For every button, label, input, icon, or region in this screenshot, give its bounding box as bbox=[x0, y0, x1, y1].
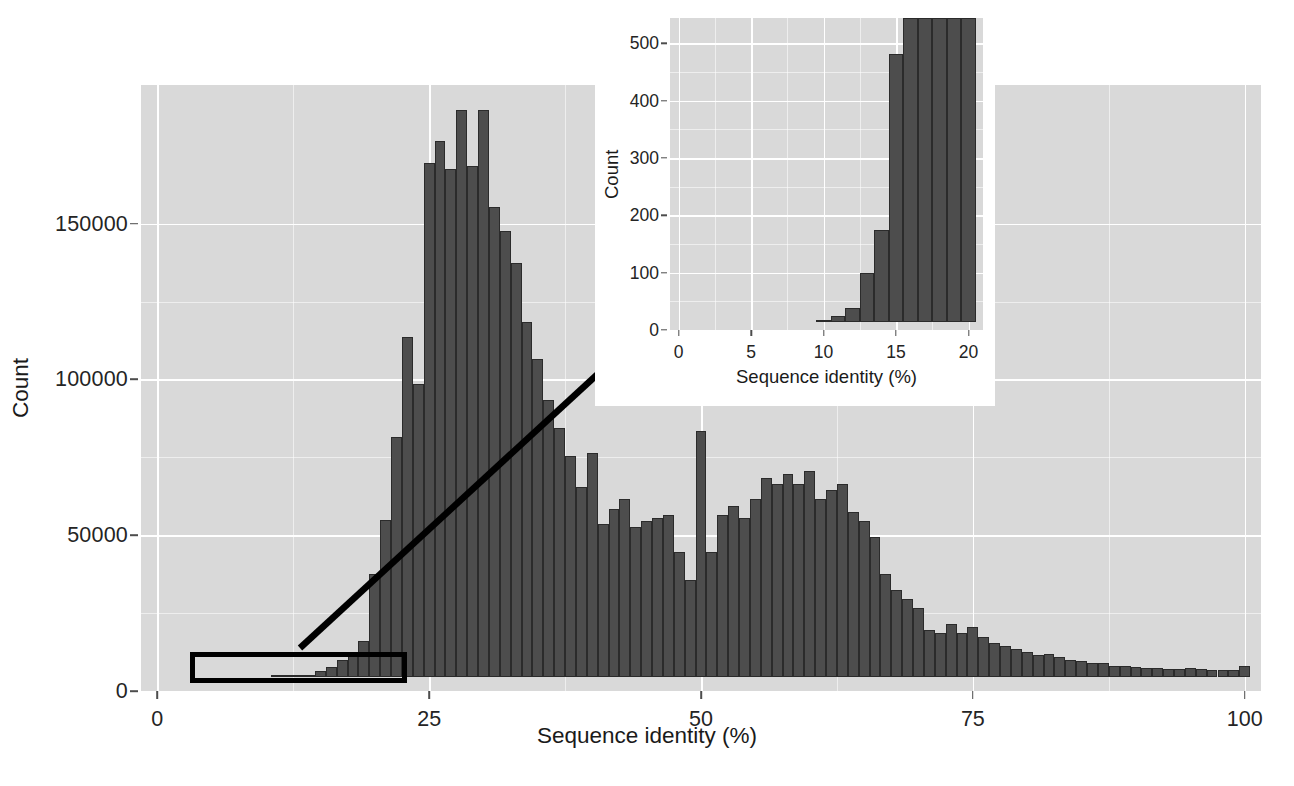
y-axis-tick-label: 200 bbox=[630, 205, 659, 226]
histogram-bar bbox=[435, 141, 446, 677]
histogram-bar bbox=[696, 431, 707, 677]
histogram-bar bbox=[413, 384, 424, 677]
inset-plot-panel bbox=[670, 18, 983, 330]
y-axis-tick-mark bbox=[661, 157, 667, 158]
inset-y-axis-label: Count bbox=[601, 149, 623, 198]
histogram-bar bbox=[565, 456, 576, 677]
histogram-bar bbox=[918, 18, 932, 322]
histogram-bar bbox=[1174, 669, 1185, 677]
y-axis-tick-mark bbox=[661, 100, 667, 101]
histogram-bar bbox=[947, 18, 961, 322]
x-axis-tick-mark bbox=[968, 330, 969, 336]
histogram-bar bbox=[456, 110, 467, 677]
y-axis-tick-mark bbox=[661, 329, 667, 330]
y-axis-tick-label: 0 bbox=[116, 679, 128, 704]
histogram-bar bbox=[1000, 646, 1011, 677]
x-axis-tick-label: 20 bbox=[959, 342, 978, 363]
histogram-bar bbox=[522, 322, 533, 677]
y-axis-tick-mark bbox=[661, 43, 667, 44]
y-axis-tick-label: 100 bbox=[630, 262, 659, 283]
x-axis-tick-label: 15 bbox=[886, 342, 905, 363]
histogram-bar bbox=[891, 590, 902, 677]
histogram-bar bbox=[978, 637, 989, 678]
histogram-bar bbox=[489, 207, 500, 677]
histogram-bar bbox=[652, 518, 663, 677]
histogram-bar bbox=[961, 18, 975, 322]
x-axis-tick-mark bbox=[678, 330, 679, 336]
x-axis-tick-mark bbox=[972, 691, 974, 699]
histogram-bar bbox=[793, 484, 804, 677]
histogram-bar bbox=[598, 524, 609, 677]
x-axis-tick-mark bbox=[750, 330, 751, 336]
main-y-axis-label: Count bbox=[8, 358, 34, 418]
histogram-bar bbox=[511, 263, 522, 677]
highlight-rectangle bbox=[190, 652, 407, 683]
x-axis-tick-mark bbox=[895, 330, 896, 336]
histogram-bar bbox=[967, 627, 978, 677]
histogram-bar bbox=[706, 552, 717, 677]
histogram-bar bbox=[1054, 657, 1065, 677]
main-x-axis-label: Sequence identity (%) bbox=[0, 723, 1294, 749]
histogram-bar bbox=[663, 515, 674, 677]
x-axis-tick-label: 0 bbox=[674, 342, 684, 363]
histogram-bar bbox=[989, 643, 1000, 677]
histogram-bar bbox=[1207, 670, 1218, 677]
y-axis-tick-mark bbox=[661, 272, 667, 273]
histogram-bar bbox=[1076, 661, 1087, 677]
histogram-bar bbox=[739, 518, 750, 677]
inset-histogram-bars bbox=[670, 18, 983, 330]
histogram-bar bbox=[902, 599, 913, 677]
histogram-bar bbox=[772, 484, 783, 677]
histogram-bar bbox=[750, 499, 761, 677]
histogram-bar bbox=[1087, 663, 1098, 677]
histogram-bar bbox=[1109, 666, 1120, 677]
histogram-bar bbox=[445, 169, 456, 677]
histogram-bar bbox=[761, 478, 772, 677]
histogram-bar bbox=[1218, 670, 1229, 677]
inset-x-axis-label: Sequence identity (%) bbox=[670, 366, 983, 388]
histogram-bar bbox=[1196, 669, 1207, 677]
x-axis-tick-label: 10 bbox=[814, 342, 833, 363]
histogram-bar bbox=[903, 18, 917, 322]
histogram-bar bbox=[1098, 663, 1109, 677]
histogram-bar bbox=[848, 512, 859, 677]
y-axis-tick-mark bbox=[130, 379, 138, 381]
histogram-bar bbox=[576, 487, 587, 677]
y-axis-tick-mark bbox=[130, 534, 138, 536]
histogram-bar bbox=[870, 537, 881, 677]
y-axis-tick-label: 100000 bbox=[55, 367, 128, 392]
histogram-bar bbox=[1011, 649, 1022, 677]
x-axis-tick-mark bbox=[1244, 691, 1246, 699]
y-axis-tick-mark bbox=[661, 215, 667, 216]
histogram-bar bbox=[402, 337, 413, 677]
histogram-bar bbox=[1022, 652, 1033, 677]
histogram-bar bbox=[674, 552, 685, 677]
y-axis-tick-label: 500 bbox=[630, 33, 659, 54]
histogram-bar bbox=[554, 428, 565, 677]
histogram-bar bbox=[717, 515, 728, 677]
histogram-bar bbox=[543, 400, 554, 677]
histogram-bar bbox=[391, 437, 402, 677]
histogram-bar bbox=[532, 359, 543, 677]
histogram-bar bbox=[500, 231, 511, 677]
inset-plot: 0100200300400500 Count 05101520 Sequence… bbox=[595, 0, 995, 406]
histogram-bar bbox=[946, 624, 957, 677]
histogram-bar bbox=[1141, 668, 1152, 677]
histogram-bar bbox=[831, 316, 845, 322]
histogram-bar bbox=[935, 633, 946, 677]
y-axis-tick-label: 50000 bbox=[67, 523, 128, 548]
histogram-bar bbox=[880, 574, 891, 677]
x-axis-tick-mark bbox=[700, 691, 702, 699]
histogram-bar bbox=[1185, 668, 1196, 677]
inset-x-axis: 05101520 bbox=[670, 330, 983, 366]
histogram-bar bbox=[860, 273, 874, 322]
histogram-bar bbox=[1152, 668, 1163, 677]
histogram-bar bbox=[1033, 655, 1044, 677]
histogram-bar bbox=[837, 484, 848, 677]
histogram-bar bbox=[1239, 666, 1250, 677]
histogram-bar bbox=[859, 521, 870, 677]
histogram-bar bbox=[874, 230, 888, 322]
histogram-bar bbox=[1120, 666, 1131, 677]
x-axis-tick-mark bbox=[823, 330, 824, 336]
histogram-bar bbox=[1228, 670, 1239, 677]
